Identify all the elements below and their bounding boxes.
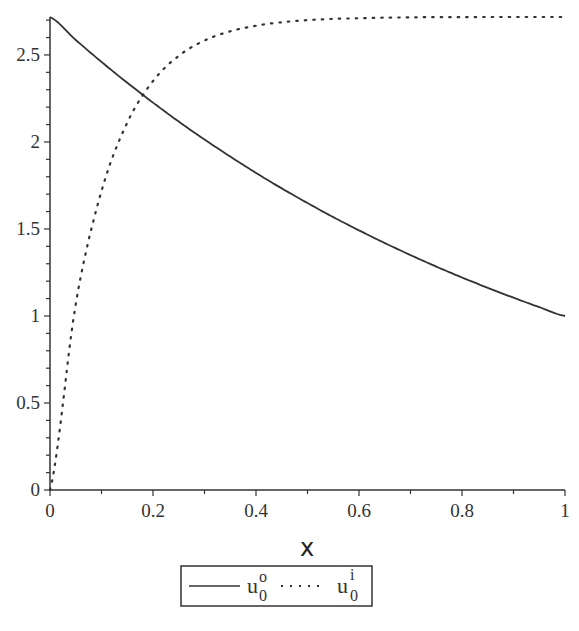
series-outer-solid-line [50,17,565,316]
x-tick-label: 0.8 [450,500,474,521]
legend-label-sub: 0 [259,587,267,604]
legend-label-sup: i [350,566,355,583]
series-inner-dotted-line [50,17,565,490]
y-tick-label: 2.5 [16,44,40,65]
legend: u o 0 u i 0 [181,566,372,606]
y-tick-label: 1.5 [16,218,40,239]
x-tick-label: 0.6 [347,500,371,521]
y-tick-label: 0.5 [16,392,40,413]
x-tick-label: 0.4 [244,500,268,521]
y-tick-label: 2 [31,131,41,152]
legend-label-base: u [247,573,258,598]
y-tick-label: 0 [31,479,41,500]
line-chart: 00.20.40.60.8100.511.522.5 x u o 0 u i 0 [0,0,579,631]
plot-area [50,17,565,490]
axes: 00.20.40.60.8100.511.522.5 [16,17,570,521]
x-tick-label: 0.2 [141,500,165,521]
legend-label-base: u [337,573,348,598]
y-tick-label: 1 [31,305,41,326]
x-tick-label: 1 [560,500,570,521]
x-axis-title: x [300,534,314,562]
x-tick-label: 0 [45,500,55,521]
legend-label-sup: o [259,568,267,585]
legend-label-sub: 0 [350,587,358,604]
